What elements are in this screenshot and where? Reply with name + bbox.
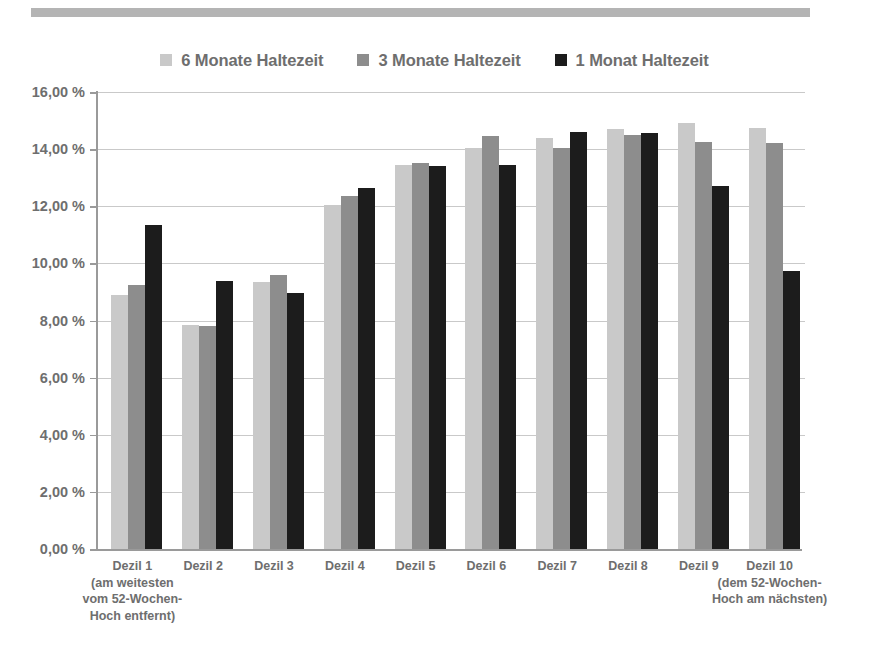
bar-group <box>177 92 233 549</box>
x-axis-label: Dezil 10(dem 52-Wochen-Hoch am nächsten) <box>700 558 840 608</box>
x-axis-label-main: Dezil 10 <box>700 558 840 575</box>
y-tick <box>90 149 98 151</box>
y-tick-label: 14,00 % <box>11 141 85 157</box>
y-tick <box>90 492 98 494</box>
y-tick-label: 12,00 % <box>11 198 85 214</box>
bar[interactable] <box>695 142 712 549</box>
bar-group <box>248 92 304 549</box>
bar[interactable] <box>429 166 446 549</box>
y-tick-label: 2,00 % <box>11 484 85 500</box>
y-tick-label: 0,00 % <box>11 541 85 557</box>
bar[interactable] <box>641 133 658 549</box>
bar[interactable] <box>145 225 162 549</box>
bar[interactable] <box>482 136 499 549</box>
bar[interactable] <box>182 325 199 549</box>
bar[interactable] <box>624 135 641 549</box>
bar[interactable] <box>216 281 233 549</box>
bar-group <box>460 92 516 549</box>
y-tick <box>90 206 98 208</box>
bar[interactable] <box>287 293 304 549</box>
bar-group <box>602 92 658 549</box>
bar[interactable] <box>749 128 766 549</box>
x-axis-label-note: (am weitesten <box>62 575 202 592</box>
bar[interactable] <box>783 271 800 549</box>
bar-group <box>319 92 375 549</box>
bar[interactable] <box>570 132 587 549</box>
bar[interactable] <box>111 295 128 549</box>
bar-group <box>106 92 162 549</box>
y-tick <box>90 321 98 323</box>
bar[interactable] <box>395 165 412 549</box>
y-tick-label: 6,00 % <box>11 370 85 386</box>
y-tick <box>90 92 98 94</box>
y-tick <box>90 378 98 380</box>
bar[interactable] <box>766 143 783 549</box>
y-tick <box>90 435 98 437</box>
plot-area <box>97 92 805 549</box>
bar[interactable] <box>678 123 695 549</box>
bar[interactable] <box>412 163 429 549</box>
y-tick <box>90 549 98 551</box>
bar[interactable] <box>465 148 482 549</box>
bar[interactable] <box>199 326 216 549</box>
chart-plot: 0,00 %2,00 %4,00 %6,00 %8,00 %10,00 %12,… <box>0 0 869 658</box>
bar[interactable] <box>253 282 270 549</box>
y-tick-label: 16,00 % <box>11 84 85 100</box>
x-axis-label-note: Hoch entfernt) <box>62 608 202 625</box>
bar[interactable] <box>358 188 375 549</box>
bar-group <box>531 92 587 549</box>
bar-group <box>390 92 446 549</box>
y-tick-label: 10,00 % <box>11 255 85 271</box>
bar-group <box>744 92 800 549</box>
bar[interactable] <box>499 165 516 549</box>
bar[interactable] <box>536 138 553 549</box>
bar[interactable] <box>553 148 570 549</box>
bar[interactable] <box>341 196 358 549</box>
bar[interactable] <box>128 285 145 549</box>
x-axis-label-note: (dem 52-Wochen- <box>700 575 840 592</box>
bar[interactable] <box>270 275 287 549</box>
y-tick-label: 4,00 % <box>11 427 85 443</box>
bar-group <box>673 92 729 549</box>
y-tick <box>90 263 98 265</box>
x-axis-label-note: Hoch am nächsten) <box>700 591 840 608</box>
bar[interactable] <box>324 205 341 549</box>
bar[interactable] <box>607 129 624 549</box>
bar[interactable] <box>712 186 729 549</box>
y-tick-label: 8,00 % <box>11 313 85 329</box>
x-axis-label-note: vom 52-Wochen- <box>62 591 202 608</box>
x-axis-line <box>96 549 802 551</box>
